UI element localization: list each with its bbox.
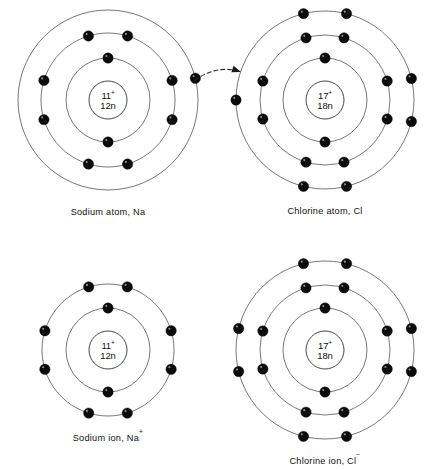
- electron-dot: [40, 364, 50, 374]
- electron-dot: [258, 326, 268, 336]
- electron-dot: [301, 157, 311, 167]
- electron: [301, 33, 311, 43]
- electron-highlight: [169, 117, 171, 119]
- electron-highlight: [260, 116, 262, 118]
- electron-dot: [122, 282, 132, 292]
- electron-dot: [320, 303, 330, 313]
- electron: [341, 8, 351, 18]
- panel-caption-sodium-atom: Sodium atom, Na: [71, 207, 146, 217]
- electron-dot: [231, 95, 241, 105]
- electron-dot: [320, 387, 330, 397]
- electron-highlight: [193, 75, 195, 77]
- electron-highlight: [341, 409, 343, 411]
- electron-dot: [339, 33, 349, 43]
- electron-dot: [298, 431, 308, 441]
- electron-highlight: [260, 78, 262, 80]
- panels-layer: 11+12nSodium atom, Na17+18nChlorine atom…: [18, 8, 417, 466]
- electron-highlight: [384, 328, 386, 330]
- electron-dot: [341, 181, 351, 191]
- electron: [39, 114, 49, 124]
- diagram-canvas: 11+12nSodium atom, Na17+18nChlorine atom…: [0, 0, 433, 470]
- electron: [298, 431, 308, 441]
- electron-highlight: [233, 97, 235, 99]
- electron-highlight: [42, 366, 44, 368]
- electron: [341, 431, 351, 441]
- electron: [339, 407, 349, 417]
- electron-dot: [39, 75, 49, 85]
- electron-highlight: [168, 366, 170, 368]
- electron: [122, 159, 132, 169]
- electron: [320, 53, 330, 63]
- electron: [83, 159, 93, 169]
- electron: [103, 137, 113, 147]
- electron-highlight: [41, 117, 43, 119]
- electron-highlight: [341, 35, 343, 37]
- electron-dot: [233, 323, 243, 333]
- electron: [258, 114, 268, 124]
- electron-highlight: [344, 433, 346, 435]
- electron: [40, 364, 50, 374]
- electron-highlight: [125, 410, 127, 412]
- electron: [339, 157, 349, 167]
- electron-highlight: [86, 410, 88, 412]
- electron-highlight: [169, 77, 171, 79]
- electron-highlight: [409, 118, 411, 120]
- electron-dot: [167, 114, 177, 124]
- electron-highlight: [86, 284, 88, 286]
- electron: [103, 387, 113, 397]
- electron-dot: [406, 366, 416, 376]
- electron-highlight: [303, 285, 305, 287]
- electron-dot: [382, 114, 392, 124]
- electron-highlight: [260, 366, 262, 368]
- electron-dot: [320, 53, 330, 63]
- electron-highlight: [301, 183, 303, 185]
- electron-highlight: [86, 33, 88, 35]
- electron: [339, 33, 349, 43]
- electron-dot: [406, 73, 416, 83]
- electron-dot: [166, 326, 176, 336]
- electron-highlight: [125, 161, 127, 163]
- electron-dot: [122, 31, 132, 41]
- electron: [84, 282, 94, 292]
- electron: [84, 408, 94, 418]
- electron: [231, 95, 241, 105]
- electron-highlight: [344, 11, 346, 13]
- nucleus-neutron-label: 18n: [317, 100, 332, 111]
- electron-dot: [40, 326, 50, 336]
- electron-highlight: [105, 55, 107, 57]
- electron-dot: [83, 31, 93, 41]
- electron-dot: [339, 283, 349, 293]
- electron-dot: [339, 407, 349, 417]
- electron: [298, 8, 308, 18]
- electron-dot: [167, 75, 177, 85]
- electron-highlight: [341, 285, 343, 287]
- electron: [341, 181, 351, 191]
- electron-highlight: [344, 261, 346, 263]
- electron: [298, 181, 308, 191]
- electron: [301, 157, 311, 167]
- panel-caption-chlorine-atom: Chlorine atom, Cl: [287, 206, 362, 216]
- electron-dot: [258, 364, 268, 374]
- ionic-bonding-diagram: 11+12nSodium atom, Na17+18nChlorine atom…: [0, 0, 433, 470]
- electron-highlight: [384, 78, 386, 80]
- electron: [167, 75, 177, 85]
- atom-panel-chlorine-ion: 17+18n: [233, 258, 416, 441]
- electron-dot: [103, 387, 113, 397]
- electron: [298, 258, 308, 268]
- electron-dot: [166, 364, 176, 374]
- electron: [103, 53, 113, 63]
- annotations-layer: [195, 66, 241, 80]
- panel-caption-sodium-ion: Sodium ion, Na+: [73, 428, 144, 444]
- electron-dot: [103, 53, 113, 63]
- electron-dot: [298, 8, 308, 18]
- electron-highlight: [384, 116, 386, 118]
- electron: [406, 366, 416, 376]
- electron-highlight: [384, 366, 386, 368]
- electron-highlight: [125, 284, 127, 286]
- transfer-arrow-head: [231, 66, 241, 72]
- electron-dot: [341, 431, 351, 441]
- electron-dot: [258, 76, 268, 86]
- electron-dot: [339, 157, 349, 167]
- electron-dot: [103, 303, 113, 313]
- electron: [406, 116, 416, 126]
